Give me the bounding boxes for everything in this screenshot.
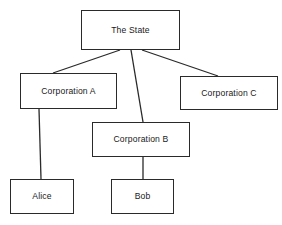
node-corporation-c-label: Corporation C [201,89,256,98]
node-bob[interactable]: Bob [111,179,174,214]
edge-state-to-corporation-a [53,50,120,73]
node-bob-label: Bob [135,192,151,201]
node-corporation-b-label: Corporation B [114,135,169,144]
node-alice[interactable]: Alice [10,179,74,214]
node-the-state[interactable]: The State [81,10,180,50]
node-corporation-b[interactable]: Corporation B [92,122,190,157]
node-corporation-c[interactable]: Corporation C [180,76,278,110]
edge-corporation-a-to-alice [39,109,41,179]
node-corporation-a-label: Corporation A [41,87,96,96]
node-corporation-a[interactable]: Corporation A [20,73,117,109]
edge-state-to-corporation-c [142,50,218,76]
edge-state-to-corporation-b [131,50,143,122]
diagram-canvas: The State Corporation A Corporation B Co… [0,0,282,225]
node-the-state-label: The State [111,26,150,35]
node-alice-label: Alice [32,192,51,201]
